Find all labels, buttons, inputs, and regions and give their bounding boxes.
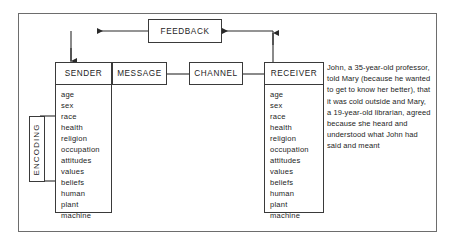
receiver-attribute-item: race [270,111,323,122]
node-message-label: MESSAGE [117,69,162,78]
receiver-attribute-list: agesexracehealthreligionoccupationattitu… [264,85,324,213]
sender-attribute-item: occupation [61,144,111,155]
receiver-attribute-item: attitudes [270,155,323,166]
diagram-page: FEEDBACK SENDER MESSAGE CHANNEL RECEIVER… [0,0,452,243]
receiver-attribute-item: machine [270,210,323,221]
node-sender-label: SENDER [65,69,103,78]
sender-attribute-item: beliefs [61,177,111,188]
sender-attribute-item: sex [61,100,111,111]
node-feedback[interactable]: FEEDBACK [148,19,222,43]
sender-attribute-item: human [61,188,111,199]
receiver-attribute-item: plant [270,199,323,210]
node-channel[interactable]: CHANNEL [189,62,243,85]
node-receiver[interactable]: RECEIVER [264,62,324,85]
example-narrative: John, a 35-year-old professor, told Mary… [327,62,431,152]
receiver-attribute-item: human [270,188,323,199]
node-feedback-label: FEEDBACK [161,27,210,36]
receiver-attribute-item: beliefs [270,177,323,188]
receiver-attribute-item: occupation [270,144,323,155]
sender-attribute-item: age [61,89,111,100]
receiver-attribute-item: sex [270,100,323,111]
sender-attribute-item: plant [61,199,111,210]
encoding-label: ENCODING [33,123,42,175]
sender-attribute-item: attitudes [61,155,111,166]
receiver-attribute-item: values [270,166,323,177]
node-channel-label: CHANNEL [194,69,237,78]
sender-attribute-item: race [61,111,111,122]
encoding-box[interactable]: ENCODING [29,116,45,182]
sender-attribute-item: health [61,122,111,133]
node-sender[interactable]: SENDER [55,62,112,85]
receiver-attribute-item: health [270,122,323,133]
receiver-attribute-item: age [270,89,323,100]
node-message[interactable]: MESSAGE [112,62,167,85]
node-receiver-label: RECEIVER [271,69,318,78]
sender-attribute-item: values [61,166,111,177]
sender-attribute-item: machine [61,210,111,221]
sender-attribute-item: religion [61,133,111,144]
sender-attribute-list: agesexracehealthreligionoccupationattitu… [55,85,112,213]
receiver-attribute-item: religion [270,133,323,144]
